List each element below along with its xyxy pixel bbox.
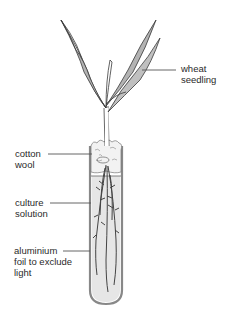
label-wheat-seedling: wheat seedling [181,63,216,85]
label-culture-solution: culture solution [15,197,48,219]
wheat-seedling-culture-diagram: wheat seedling cotton wool culture solut… [0,0,244,310]
label-aluminium-foil: aluminium foil to exclude light [14,245,72,278]
label-cotton-wool: cotton wool [15,148,41,170]
leaves [61,20,160,112]
